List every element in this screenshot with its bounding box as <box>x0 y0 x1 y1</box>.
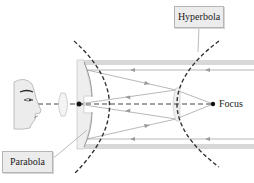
hyperbola-label-text: Hyperbola <box>178 12 220 22</box>
cassegrain-telescope-diagram: Hyperbola Parabola Focus <box>0 0 254 183</box>
focus-dot <box>211 102 215 106</box>
hyperbola-leader-line <box>198 27 199 52</box>
eyepiece-lens-icon <box>59 93 68 116</box>
parabola-label: Parabola <box>2 151 53 173</box>
hyperbola-label: Hyperbola <box>174 6 224 28</box>
observer-face-icon <box>14 79 41 129</box>
eyepiece-focus-dot <box>77 102 82 107</box>
focus-label: Focus <box>219 99 243 109</box>
parabola-label-text: Parabola <box>10 157 45 167</box>
